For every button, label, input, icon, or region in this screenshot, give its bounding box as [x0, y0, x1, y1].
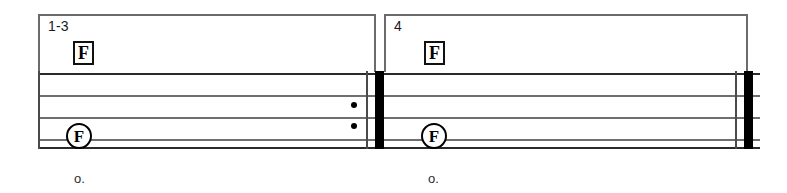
repeat-dot-upper — [351, 102, 357, 108]
repeat-dot-lower — [351, 123, 357, 129]
staff-line-3 — [38, 117, 760, 119]
circled-note-1[interactable]: F — [66, 123, 92, 149]
chord-symbol-label-2: F — [429, 44, 440, 62]
staff-line-4 — [38, 139, 760, 141]
rhythm-mark-1: o. — [74, 172, 85, 185]
circled-note-label-2: F — [429, 128, 439, 145]
music-notation-sheet: 1-3 4 F F F F o. o. — [0, 0, 787, 193]
chord-symbol-box-2[interactable]: F — [424, 41, 445, 65]
chord-symbol-box-1[interactable]: F — [73, 41, 94, 65]
staff-line-2 — [38, 95, 760, 97]
chord-symbol-label-1: F — [78, 44, 89, 62]
ending-label-1-3: 1-3 — [48, 19, 69, 33]
staff-line-bottom — [38, 147, 760, 149]
ending-label-4: 4 — [394, 19, 402, 33]
barline-repeat-thin-line — [366, 71, 368, 149]
barline-start — [38, 71, 40, 149]
circled-note-label-1: F — [74, 128, 84, 145]
staff-line-1 — [38, 73, 760, 75]
rhythm-mark-2: o. — [428, 172, 439, 185]
barline-final-thin-line — [735, 71, 737, 149]
circled-note-2[interactable]: F — [421, 123, 447, 149]
barline-repeat-thick-line — [375, 71, 384, 149]
barline-final-thick-line — [744, 71, 753, 149]
